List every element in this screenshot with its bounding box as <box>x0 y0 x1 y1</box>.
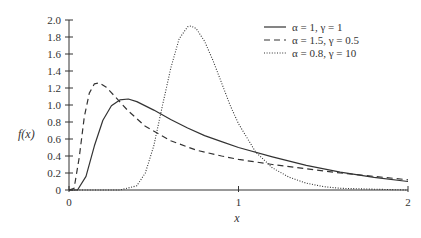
series-line-solid <box>69 99 408 190</box>
legend-label: α = 1, γ = 1 <box>292 21 343 33</box>
legend-label: α = 0.8, γ = 10 <box>292 47 357 59</box>
series-lines <box>69 26 408 190</box>
y-tick-label: 1.8 <box>47 31 61 43</box>
y-tick-label: 1.2 <box>47 82 61 94</box>
y-tick-label: 1.4 <box>47 65 61 77</box>
y-axis-title: f(x) <box>18 127 35 141</box>
x-tick-label: 2 <box>405 196 411 208</box>
series-line-dashed <box>69 83 408 190</box>
series-line-dotted <box>69 26 408 190</box>
y-tick-label: 0.4 <box>47 150 61 162</box>
y-tick-label: 1.6 <box>47 48 61 60</box>
y-tick-label: 0.6 <box>47 133 61 145</box>
legend: α = 1, γ = 1α = 1.5, γ = 0.5α = 0.8, γ =… <box>264 21 360 59</box>
y-tick-label: 1.0 <box>47 99 61 111</box>
chart: 00.20.40.60.81.01.21.41.61.82.0012 α = 1… <box>0 0 421 238</box>
y-tick-label: 2.0 <box>47 14 61 26</box>
y-tick-label: 0.8 <box>47 116 61 128</box>
x-tick-label: 0 <box>66 196 72 208</box>
y-tick-label: 0.2 <box>47 167 61 179</box>
x-axis-title: x <box>233 211 240 225</box>
x-tick-label: 1 <box>236 196 242 208</box>
y-tick-label: 0 <box>56 184 62 196</box>
legend-label: α = 1.5, γ = 0.5 <box>292 34 360 46</box>
